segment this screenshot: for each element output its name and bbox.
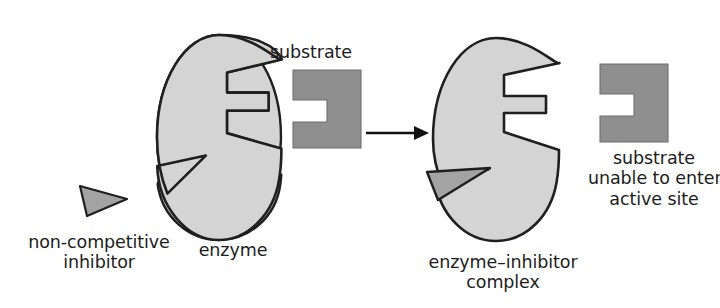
substrate-left: [293, 70, 361, 148]
enzyme-right: [433, 38, 560, 241]
reaction-arrow-head: [414, 126, 429, 140]
label-enzyme-inhibitor-complex: enzyme–inhibitor complex: [408, 252, 598, 293]
label-non-competitive-inhibitor: non-competitive inhibitor: [4, 232, 194, 273]
label-substrate-unable-to-enter: substrate unable to enter active site: [588, 148, 720, 209]
non-competitive-inhibition-diagram: substrate non-competitive inhibitor enzy…: [0, 0, 720, 308]
enzyme-left-group: [157, 35, 282, 240]
enzyme-inhibitor-complex-group: [427, 38, 560, 241]
substrate-right: [600, 64, 668, 142]
label-substrate-left: substrate: [270, 42, 390, 62]
non-competitive-inhibitor-left: [80, 186, 127, 216]
reaction-arrow: [366, 126, 429, 140]
label-enzyme: enzyme: [170, 240, 296, 260]
